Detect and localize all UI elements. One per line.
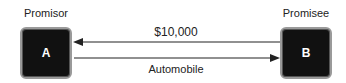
bottom-arrow-label: Automobile	[126, 63, 226, 75]
bottom-arrow-right-icon	[74, 54, 280, 62]
top-arrow-left-icon	[73, 38, 280, 46]
top-arrow-label: $10,000	[126, 25, 226, 39]
